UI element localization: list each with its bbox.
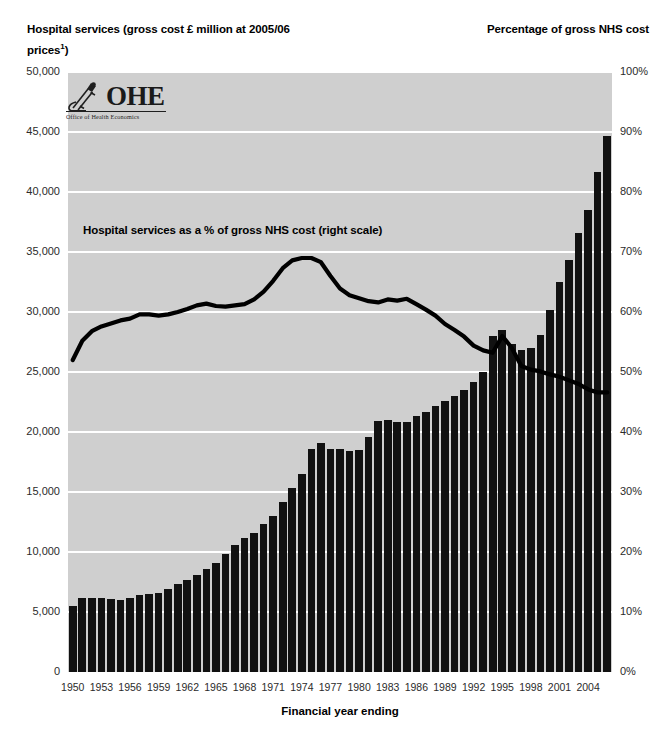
- right-axis-tick-label: 20%: [620, 546, 663, 557]
- right-axis-tick-label: 10%: [620, 606, 663, 617]
- right-axis-tick-label: 40%: [620, 426, 663, 437]
- right-axis-tick-label: 30%: [620, 486, 663, 497]
- right-axis-tick-label: 0%: [620, 666, 663, 677]
- right-axis-tick-label: 100%: [620, 66, 663, 77]
- right-axis-tick-label: 90%: [620, 126, 663, 137]
- right-axis-tick-label: 70%: [620, 246, 663, 257]
- right-axis-ticks: 100%90%80%70%60%50%40%30%20%10%0%: [0, 0, 663, 730]
- x-axis-title: Financial year ending: [68, 705, 612, 717]
- right-axis-tick-label: 50%: [620, 366, 663, 377]
- right-axis-tick-label: 60%: [620, 306, 663, 317]
- x-axis-tick-label: 2004: [568, 681, 608, 693]
- chart-root: Hospital services (gross cost £ million …: [0, 0, 663, 730]
- right-axis-tick-label: 80%: [620, 186, 663, 197]
